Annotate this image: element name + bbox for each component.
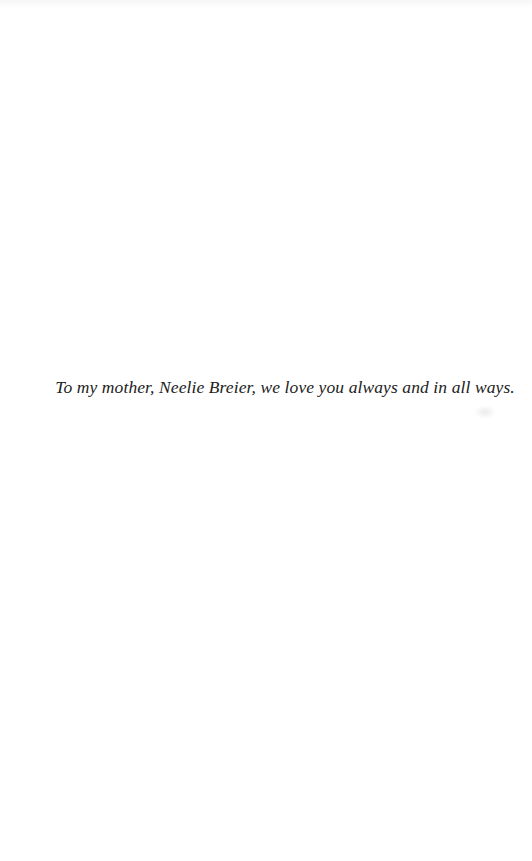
page-top-edge (0, 0, 532, 8)
book-page: To my mother, Neelie Breier, we love you… (0, 0, 532, 861)
dedication-text: To my mother, Neelie Breier, we love you… (0, 377, 532, 398)
scan-smudge (474, 405, 496, 419)
